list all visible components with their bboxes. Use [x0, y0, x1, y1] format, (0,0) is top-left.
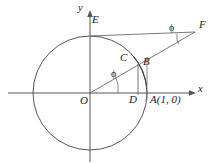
point-label-C: C: [120, 52, 127, 63]
angle-arc-origin: [116, 77, 119, 93]
y-axis: [87, 10, 93, 162]
figure-canvas: [0, 0, 213, 164]
point-label-D: D: [129, 94, 137, 105]
point-label-A: A(1, 0): [150, 94, 181, 105]
point-label-E: E: [92, 14, 99, 25]
x-axis-label: x: [198, 84, 203, 95]
point-label-B: B: [143, 56, 150, 67]
angle-label-origin: ϕ: [111, 69, 116, 79]
angle-label-F: ϕ: [169, 23, 174, 33]
line-E-F: [90, 32, 195, 36]
point-label-F: F: [199, 19, 206, 30]
point-label-O: O: [80, 95, 88, 106]
y-axis-label: y: [78, 3, 83, 14]
geometry-figure: y x O E A(1, 0) D B C F ϕ ϕ: [0, 0, 213, 164]
